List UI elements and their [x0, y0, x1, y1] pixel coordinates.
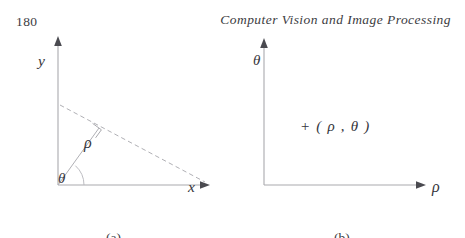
y-axis-arrowhead-icon [54, 36, 62, 46]
panel-a-drawing [14, 30, 230, 238]
annotation-theta: θ [58, 170, 65, 187]
point-marker-label: + ( ρ , θ ) [300, 118, 370, 135]
theta-arc-icon [75, 166, 84, 185]
figure-caption-a: (a) [106, 230, 121, 238]
dashed-image-line [60, 105, 205, 182]
rho-axis-arrowhead-icon [416, 181, 426, 189]
annotation-rho: ρ [84, 134, 92, 152]
axis-label-theta: θ [253, 52, 260, 69]
axis-label-y: y [38, 52, 45, 70]
book-page: 180 Computer Vision and Image Processing… [0, 0, 465, 238]
theta-axis-arrowhead-icon [260, 38, 268, 48]
running-head-title: Computer Vision and Image Processing [220, 12, 451, 28]
x-axis-arrowhead-icon [200, 181, 210, 189]
figure-panel-b: θ ρ + ( ρ , θ ) (b) [236, 30, 452, 238]
axis-label-rho: ρ [432, 178, 440, 196]
axis-label-x: x [188, 178, 195, 196]
page-number: 180 [16, 14, 37, 30]
figure-panel-a: y x ρ θ (a) [14, 30, 230, 238]
figure-caption-b: (b) [334, 230, 350, 238]
